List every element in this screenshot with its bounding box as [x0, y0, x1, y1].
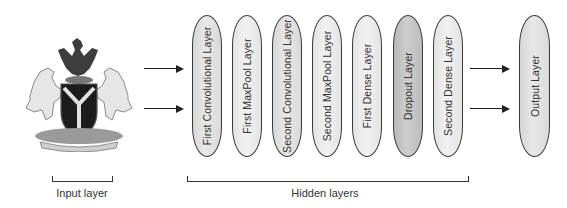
layer-label: First Dense Layer [361, 44, 373, 129]
output-arrow-bottom [470, 108, 508, 109]
nigeria-coat-of-arms-icon [20, 38, 138, 152]
layer-label: Second Convolutional Layer [281, 19, 293, 153]
layer-output: Output Layer [519, 15, 550, 157]
layer-first-convolutional: First Convolutional Layer [192, 15, 222, 157]
layer-label: Output Layer [529, 55, 541, 117]
layer-second-convolutional: Second Convolutional Layer [272, 15, 302, 157]
cnn-architecture-diagram: First Convolutional Layer First MaxPool … [0, 0, 567, 208]
layer-second-maxpool: Second MaxPool Layer [312, 15, 342, 157]
input-bracket [52, 176, 113, 182]
layer-label: Dropout Layer [402, 52, 414, 120]
input-arrow-bottom [144, 108, 182, 109]
layer-label: First Convolutional Layer [201, 27, 213, 146]
layer-label: First MaxPool Layer [241, 38, 253, 133]
layer-first-dense: First Dense Layer [352, 15, 382, 157]
layer-label: Second Dense Layer [442, 36, 454, 136]
input-layer-label: Input layer [32, 187, 132, 199]
output-arrow-top [470, 68, 508, 69]
layer-label: Second MaxPool Layer [321, 31, 333, 142]
layer-dropout: Dropout Layer [393, 15, 423, 157]
input-arrow-top [144, 68, 182, 69]
layer-first-maxpool: First MaxPool Layer [232, 15, 262, 157]
hidden-layers-label: Hidden layers [275, 187, 375, 199]
hidden-bracket [187, 176, 469, 182]
layer-second-dense: Second Dense Layer [433, 15, 463, 157]
